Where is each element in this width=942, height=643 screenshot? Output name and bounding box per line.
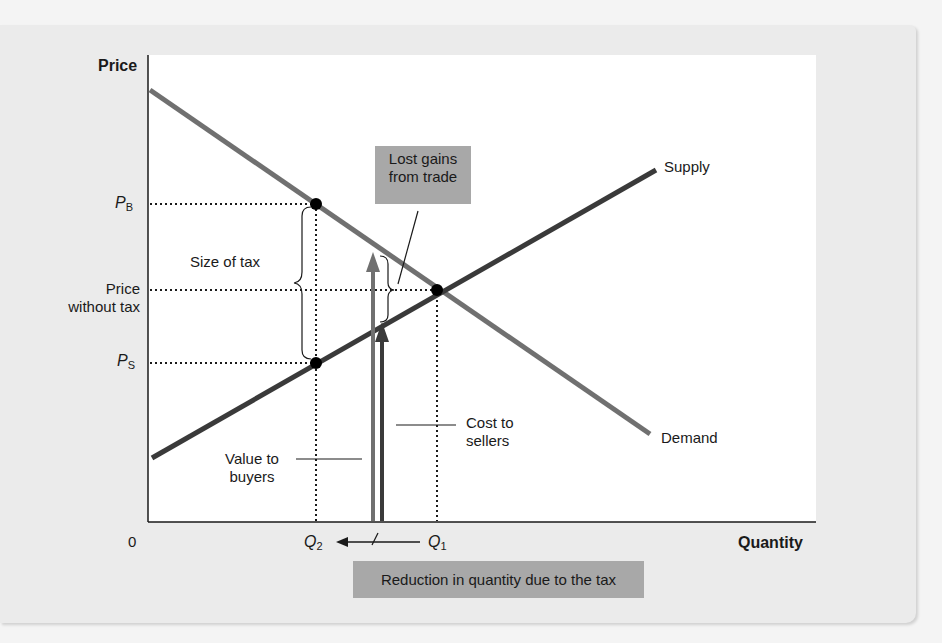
q2-label: Q2 xyxy=(304,533,323,555)
pb-label: PB xyxy=(115,194,133,216)
reduction-callout: Reduction in quantity due to the tax xyxy=(353,561,644,598)
q1-sub: 1 xyxy=(440,540,446,552)
cost-to-sellers-label: Cost to sellers xyxy=(466,414,514,450)
x-axis-label: Quantity xyxy=(738,534,803,552)
ps-main: P xyxy=(117,352,128,369)
price-without-tax-line1: Price xyxy=(40,280,140,298)
reduction-pointer xyxy=(372,533,378,545)
demand-label: Demand xyxy=(661,429,718,447)
q2-sub: 2 xyxy=(316,540,322,552)
lost-gains-callout: Lost gains from trade xyxy=(375,146,471,204)
buyer-price-point xyxy=(310,198,322,210)
value-to-buyers-line1: Value to xyxy=(218,450,286,468)
ps-sub: S xyxy=(128,359,135,371)
q1-label: Q1 xyxy=(428,533,447,555)
quantity-reduction-arrowhead xyxy=(336,537,348,547)
q1-main: Q xyxy=(428,533,440,550)
y-axis-label: Price xyxy=(98,57,137,75)
price-without-tax-label: Price without tax xyxy=(40,280,140,316)
value-to-buyers-arrowhead xyxy=(366,252,380,272)
origin-label: 0 xyxy=(128,533,136,551)
seller-price-point xyxy=(310,357,322,369)
size-of-tax-brace xyxy=(294,207,311,359)
q2-main: Q xyxy=(304,533,316,550)
equilibrium-point xyxy=(431,284,443,296)
pb-main: P xyxy=(115,194,126,211)
supply-curve xyxy=(152,170,656,458)
supply-label: Supply xyxy=(664,158,710,176)
value-to-buyers-line2: buyers xyxy=(218,468,286,486)
cost-to-sellers-line1: Cost to xyxy=(466,414,514,432)
lost-gains-line2: from trade xyxy=(375,168,471,186)
value-to-buyers-label: Value to buyers xyxy=(218,450,286,486)
lost-gains-line1: Lost gains xyxy=(375,150,471,168)
cost-to-sellers-line2: sellers xyxy=(466,432,514,450)
ps-label: PS xyxy=(117,352,135,374)
pb-sub: B xyxy=(126,201,133,213)
guide-lines xyxy=(150,204,437,521)
price-without-tax-line2: without tax xyxy=(40,298,140,316)
size-of-tax-label: Size of tax xyxy=(190,253,260,271)
